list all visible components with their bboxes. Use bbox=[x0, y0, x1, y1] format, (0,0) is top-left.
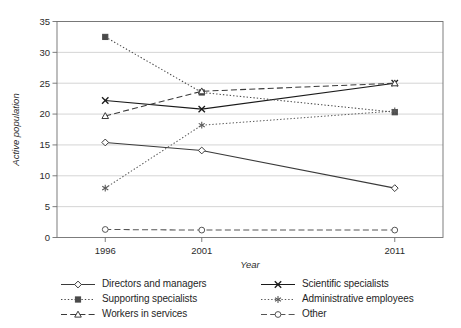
legend-key-cross-x-icon bbox=[260, 277, 296, 290]
y-tick-label: 15 bbox=[39, 139, 50, 150]
plot-frame bbox=[57, 22, 443, 238]
y-axis-title: Active population bbox=[10, 93, 21, 166]
series-5 bbox=[102, 227, 397, 233]
y-tick-label: 30 bbox=[39, 47, 50, 58]
series-line bbox=[105, 142, 395, 188]
series-3 bbox=[102, 108, 398, 192]
data-point-marker bbox=[102, 185, 108, 192]
x-tick-label: 1996 bbox=[95, 245, 116, 256]
series-line bbox=[105, 37, 395, 112]
data-point-marker bbox=[391, 185, 398, 192]
data-point-marker bbox=[199, 122, 205, 129]
legend-key-circle-open-icon bbox=[260, 307, 296, 320]
data-point-marker bbox=[75, 281, 82, 288]
legend-label: Supporting specialists bbox=[102, 293, 197, 304]
series-line bbox=[105, 83, 395, 109]
data-point-marker bbox=[275, 312, 281, 318]
data-point-marker bbox=[199, 227, 205, 233]
data-point-marker bbox=[102, 227, 108, 233]
y-tick-label: 25 bbox=[39, 78, 50, 89]
data-point-marker bbox=[392, 227, 398, 233]
legend-item[interactable]: Administrative employees bbox=[260, 291, 456, 306]
series-0 bbox=[102, 139, 398, 191]
series-line bbox=[105, 111, 395, 188]
data-point-marker bbox=[75, 297, 80, 302]
line-chart-plot: 05101520253035 199620012011 Active popul… bbox=[0, 0, 461, 276]
legend-key-asterisk-icon bbox=[260, 292, 296, 305]
series-line bbox=[105, 229, 395, 230]
y-tick-label: 10 bbox=[39, 170, 50, 181]
legend-item[interactable]: Workers in services bbox=[60, 306, 256, 321]
y-tick-label: 35 bbox=[39, 16, 50, 27]
gridlines bbox=[57, 22, 443, 207]
legend-item[interactable]: Directors and managers bbox=[60, 276, 256, 291]
chart-legend: Directors and managersScientific special… bbox=[60, 276, 460, 321]
legend-label: Scientific specialists bbox=[302, 278, 389, 289]
data-point-marker bbox=[198, 147, 205, 154]
legend-label: Administrative employees bbox=[302, 293, 414, 304]
x-tick-label: 2001 bbox=[191, 245, 212, 256]
legend-item[interactable]: Other bbox=[260, 306, 456, 321]
y-tick-label: 5 bbox=[45, 201, 50, 212]
legend-item[interactable]: Supporting specialists bbox=[60, 291, 256, 306]
x-axis-title: Year bbox=[240, 259, 260, 270]
x-tick-label: 2011 bbox=[385, 245, 405, 256]
legend-item[interactable]: Scientific specialists bbox=[260, 276, 456, 291]
legend-key-square-filled-icon bbox=[60, 292, 96, 305]
y-axis-ticks: 05101520253035 bbox=[39, 16, 57, 243]
legend-key-diamond-open-icon bbox=[60, 277, 96, 290]
data-series-layer bbox=[102, 34, 398, 233]
x-axis-ticks: 199620012011 bbox=[95, 238, 405, 256]
chart-figure: 05101520253035 199620012011 Active popul… bbox=[0, 0, 461, 328]
legend-key-triangle-open-icon bbox=[60, 307, 96, 320]
y-tick-label: 0 bbox=[45, 232, 50, 243]
series-line bbox=[105, 83, 395, 116]
data-point-marker bbox=[103, 34, 108, 39]
y-tick-label: 20 bbox=[39, 108, 50, 119]
legend-label: Directors and managers bbox=[102, 278, 207, 289]
series-4 bbox=[102, 80, 398, 119]
legend-label: Other bbox=[302, 308, 327, 319]
legend-label: Workers in services bbox=[102, 308, 187, 319]
